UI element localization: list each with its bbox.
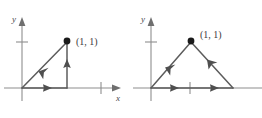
diagram-panel-left: y x <box>0 0 131 118</box>
point-marker-left <box>64 38 71 45</box>
hypotenuse-segment-left <box>22 42 67 88</box>
vertical-segment-left <box>63 42 71 88</box>
right-slope-segment-right <box>191 42 233 88</box>
figure-root: y x <box>0 0 262 118</box>
y-axis-label: y <box>11 14 16 24</box>
diagram-panel-right: y (1, 1) <box>131 0 262 118</box>
x-axis-label: x <box>115 93 120 103</box>
point-label-right: (1, 1) <box>200 29 222 41</box>
point-marker-right <box>188 38 195 45</box>
bottom-segment-right <box>151 84 233 92</box>
y-axis-label: y <box>140 14 145 24</box>
left-slope-segment-right <box>151 42 191 88</box>
bottom-segment-left <box>22 84 67 92</box>
point-label-left: (1, 1) <box>76 36 98 48</box>
